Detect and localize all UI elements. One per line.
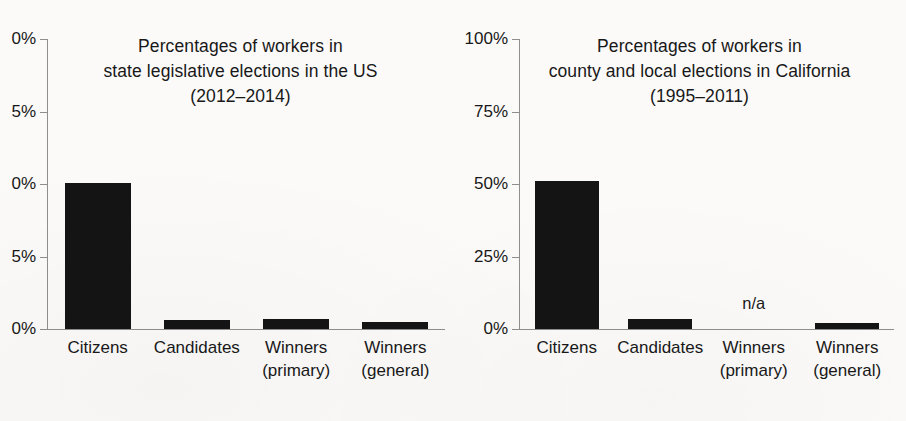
bar-slot-left-winners-primary — [247, 39, 346, 329]
x-label-right-citizens-line-1: Citizens — [520, 336, 614, 359]
x-label-left-winners-primary-line-2: (primary) — [247, 359, 346, 382]
bar-slot-right-candidates — [614, 39, 708, 329]
x-label-left-winners-general: Winners (general) — [346, 336, 445, 406]
na-label-right-winners-primary: n/a — [707, 294, 801, 313]
x-axis-line-right — [519, 329, 894, 330]
bar-right-candidates — [628, 319, 692, 329]
bar-slot-left-candidates — [147, 39, 246, 329]
bar-left-winners-primary — [263, 319, 329, 329]
bar-slot-right-winners-general — [801, 39, 895, 329]
y-tick-label-right-100: 100% — [465, 29, 508, 49]
plot-area-right: 100% 75% 50% 25% 0% n/a — [519, 39, 894, 329]
x-label-left-winners-primary: Winners (primary) — [247, 336, 346, 406]
y-tick-mark-right-0 — [512, 329, 519, 330]
y-tick-mark-left-50 — [40, 184, 47, 185]
y-tick-label-right-0: 0% — [483, 319, 508, 339]
y-tick-mark-left-75 — [40, 112, 47, 113]
y-tick-label-right-75: 75% — [474, 102, 508, 122]
x-label-left-winners-primary-line-1: Winners — [247, 336, 346, 359]
x-label-right-candidates: Candidates — [614, 336, 708, 406]
bar-right-winners-general — [815, 323, 879, 329]
bar-right-citizens — [535, 181, 599, 329]
x-label-right-winners-primary-line-1: Winners — [707, 336, 801, 359]
x-label-left-citizens: Citizens — [48, 336, 147, 406]
y-tick-label-right-50: 50% — [474, 174, 508, 194]
bar-group-right: n/a — [520, 39, 894, 329]
figure-two-bar-charts: Percentages of workers in state legislat… — [0, 0, 906, 421]
chart-panel-left: Percentages of workers in state legislat… — [0, 0, 453, 421]
x-axis-labels-right: Citizens Candidates Winners (primary) Wi… — [520, 336, 894, 406]
x-label-right-winners-primary: Winners (primary) — [707, 336, 801, 406]
y-tick-label-left-0: 0% — [11, 319, 36, 339]
y-tick-mark-left-100 — [40, 39, 47, 40]
x-label-right-winners-general-line-1: Winners — [801, 336, 895, 359]
x-label-right-citizens: Citizens — [520, 336, 614, 406]
y-tick-mark-left-0 — [40, 329, 47, 330]
x-axis-line-left — [47, 329, 445, 330]
x-label-right-winners-primary-line-2: (primary) — [707, 359, 801, 382]
bar-slot-left-winners-general — [346, 39, 445, 329]
y-tick-label-left-100: 0% — [11, 29, 36, 49]
y-tick-label-left-50: 0% — [11, 174, 36, 194]
x-label-left-candidates-line-1: Candidates — [147, 336, 246, 359]
x-label-right-winners-general: Winners (general) — [801, 336, 895, 406]
bar-left-winners-general — [362, 322, 428, 329]
y-tick-mark-right-100 — [512, 39, 519, 40]
plot-area-left: 0% 5% 0% 5% 0% — [47, 39, 445, 329]
x-label-left-candidates: Candidates — [147, 336, 246, 406]
y-tick-mark-right-25 — [512, 257, 519, 258]
x-label-right-winners-general-line-2: (general) — [801, 359, 895, 382]
x-axis-labels-left: Citizens Candidates Winners (primary) Wi… — [48, 336, 445, 406]
bar-slot-right-winners-primary: n/a — [707, 39, 801, 329]
y-tick-label-left-75: 5% — [11, 102, 36, 122]
y-tick-mark-left-25 — [40, 257, 47, 258]
chart-panel-right: Percentages of workers in county and loc… — [453, 0, 906, 421]
bar-left-citizens — [65, 183, 131, 329]
x-label-left-winners-general-line-1: Winners — [346, 336, 445, 359]
x-label-left-citizens-line-1: Citizens — [48, 336, 147, 359]
bar-slot-left-citizens — [48, 39, 147, 329]
y-tick-label-right-25: 25% — [474, 247, 508, 267]
y-tick-label-left-25: 5% — [11, 247, 36, 267]
x-label-left-winners-general-line-2: (general) — [346, 359, 445, 382]
y-tick-mark-right-50 — [512, 184, 519, 185]
x-label-right-candidates-line-1: Candidates — [614, 336, 708, 359]
bar-slot-right-citizens — [520, 39, 614, 329]
bar-left-candidates — [164, 320, 230, 329]
bar-group-left — [48, 39, 445, 329]
y-tick-mark-right-75 — [512, 112, 519, 113]
